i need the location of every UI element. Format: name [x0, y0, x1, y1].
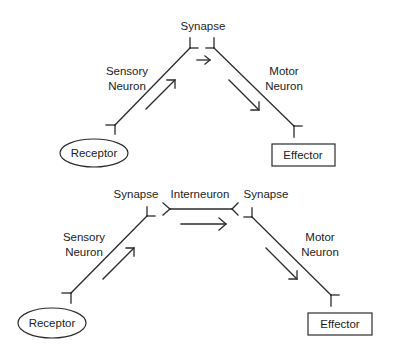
reflex-arc-figure: Synapse Sensory Neuron Motor Neuron — [0, 0, 393, 353]
receptor: Receptor — [18, 308, 86, 338]
receptor-label: Receptor — [29, 317, 76, 329]
interneuron-arrow-icon — [181, 218, 226, 230]
synapse-right-label: Synapse — [244, 188, 289, 200]
motor-neuron-label-1: Motor — [269, 65, 299, 77]
diagram-three-neuron: Synapse Interneuron Synapse Sensory Neur… — [18, 188, 372, 338]
motor-neuron-label-2: Neuron — [301, 246, 339, 258]
motor-neuron-label-1: Motor — [305, 231, 335, 243]
effector-label: Effector — [283, 149, 323, 161]
receptor-label: Receptor — [71, 147, 118, 159]
sensory-neuron-label-2: Neuron — [108, 80, 146, 92]
effector: Effector — [308, 313, 372, 335]
sensory-neuron-label-1: Sensory — [63, 231, 105, 243]
interneuron-label: Interneuron — [171, 188, 230, 200]
signal-arrow-icon — [103, 248, 134, 279]
receptor: Receptor — [60, 139, 128, 167]
signal-arrow-icon — [266, 248, 297, 279]
signal-arrow-icon — [146, 80, 175, 109]
sensory-neuron-label-2: Neuron — [65, 246, 103, 258]
effector-label: Effector — [320, 318, 360, 330]
motor-neuron-label-2: Neuron — [265, 80, 303, 92]
effector: Effector — [272, 144, 335, 166]
signal-arrow-icon — [229, 80, 259, 110]
synapse-left-label: Synapse — [114, 188, 159, 200]
synapse-label: Synapse — [181, 20, 226, 32]
sensory-neuron-label-1: Sensory — [106, 65, 148, 77]
interneuron — [163, 203, 238, 215]
diagram-two-neuron: Synapse Sensory Neuron Motor Neuron — [60, 20, 335, 167]
synapse-arrow-icon — [197, 56, 210, 64]
